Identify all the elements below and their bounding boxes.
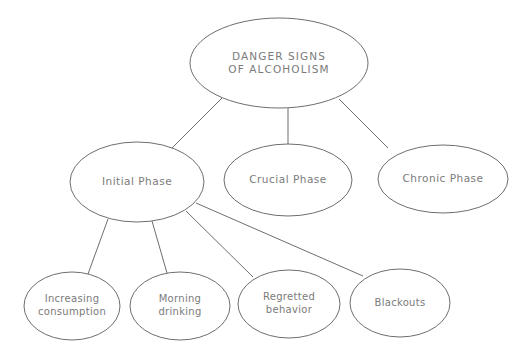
connector-initial-to-regretted-behavior xyxy=(186,211,253,277)
node-group xyxy=(24,18,508,340)
node-blackouts[interactable] xyxy=(350,269,450,337)
diagram-canvas xyxy=(0,0,532,359)
node-chronic-phase[interactable] xyxy=(378,145,508,213)
node-root[interactable] xyxy=(190,18,368,108)
node-crucial-phase[interactable] xyxy=(224,144,352,216)
connector-initial-to-morning-drinking xyxy=(152,221,167,273)
connector-root-to-chronic-phase xyxy=(339,99,388,148)
node-increasing-consumption[interactable] xyxy=(24,272,120,340)
connector-root-to-initial-phase xyxy=(172,98,222,148)
node-regretted-behavior[interactable] xyxy=(238,270,340,338)
node-morning-drinking[interactable] xyxy=(130,272,230,340)
connector-initial-to-increasing-consumption xyxy=(88,219,108,274)
concept-map-diagram: DANGER SIGNS OF ALCOHOLISMInitial PhaseC… xyxy=(0,0,532,359)
node-initial-phase[interactable] xyxy=(70,142,204,222)
